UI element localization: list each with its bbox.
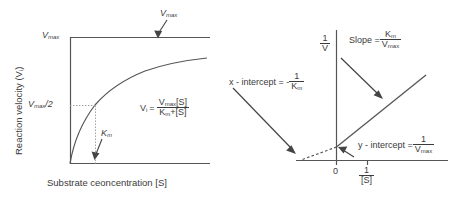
y-tick-vmax-half-sub: max — [34, 103, 45, 109]
y-intercept-label: y - intercept = 1 Vmax — [358, 135, 434, 155]
slope-denominator: Vmax — [380, 39, 401, 49]
slope-label-text: Slope = — [349, 35, 380, 45]
km-label-sub: m — [107, 132, 112, 138]
right-x-axis-label: 1 [S] — [359, 166, 374, 186]
x-intercept-callout-arrow — [233, 88, 296, 154]
right-y-axis-fraction: 1 V — [320, 34, 330, 54]
right-x-axis-fraction: 1 [S] — [359, 166, 374, 186]
lineweaver-burk-graphic — [228, 0, 455, 198]
y-intercept-fraction: 1 Vmax — [413, 135, 434, 155]
right-y-axis-num: 1 — [320, 34, 330, 43]
lineweaver-burk-plot: 1 V 0 1 [S] Slope = Km Vmax x - intercep… — [228, 0, 455, 198]
x-intercept-denominator: Km — [289, 81, 304, 91]
vmax-asymptote-label: Vmax — [160, 9, 177, 18]
left-y-axis-title-text: Reaction velocity (V — [13, 71, 24, 155]
michaelis-menten-graphic — [0, 0, 228, 198]
right-y-axis-label: 1 V — [320, 34, 330, 54]
x-intercept-label: x - intercept = - 1 Km — [229, 72, 304, 92]
right-x-axis-den: [S] — [359, 175, 374, 185]
slope-label: Slope = Km Vmax — [349, 30, 401, 50]
y-tick-vmax-sub: max — [48, 34, 59, 40]
y-intercept-numerator: 1 — [413, 135, 434, 144]
x-intercept-numerator: 1 — [289, 72, 304, 81]
y-tick-vmax-half-tail: /2 — [45, 99, 53, 109]
slope-fraction: Km Vmax — [380, 30, 401, 50]
right-x-axis-num: 1 — [359, 166, 374, 175]
vmax-asymptote-label-sub: max — [166, 12, 177, 18]
equation-numerator: Vmax[S] — [157, 98, 189, 107]
enzyme-kinetics-figure: Reaction velocity (Vi) Substrate ceoncen… — [0, 0, 455, 198]
y-intercept-callout-arrow — [338, 146, 354, 157]
km-label: Km — [101, 129, 112, 138]
y-tick-vmax-half: Vmax/2 — [28, 100, 53, 109]
left-y-axis-title-tail: ) — [13, 67, 24, 70]
regression-line-extrapolation — [301, 147, 337, 160]
x-intercept-fraction: 1 Km — [289, 72, 304, 92]
equation-equals: = — [147, 103, 156, 113]
left-x-axis-title: Substrate ceoncentration [S] — [47, 177, 167, 188]
michaelis-menten-equation: Vi= Vmax[S] Km+[S] — [140, 98, 189, 118]
equation-denominator: Km+[S] — [157, 107, 189, 117]
right-y-axis-den: V — [320, 43, 330, 53]
origin-tick-label: 0 — [333, 167, 338, 176]
km-callout-arrow — [92, 139, 102, 160]
vmax-callout-arrow — [154, 20, 167, 39]
y-intercept-denominator: Vmax — [413, 144, 434, 154]
left-y-axis-title: Reaction velocity (Vi) — [13, 67, 24, 155]
slope-callout-arrow — [341, 58, 383, 99]
equation-fraction: Vmax[S] Km+[S] — [157, 98, 189, 118]
x-intercept-label-text: x - intercept = - — [229, 77, 289, 87]
y-tick-vmax: Vmax — [42, 31, 59, 40]
y-intercept-label-text: y - intercept = — [358, 140, 413, 150]
michaelis-menten-plot: Reaction velocity (Vi) Substrate ceoncen… — [0, 0, 228, 198]
equation-lhs: Vi — [140, 103, 147, 113]
slope-numerator: Km — [380, 30, 401, 39]
